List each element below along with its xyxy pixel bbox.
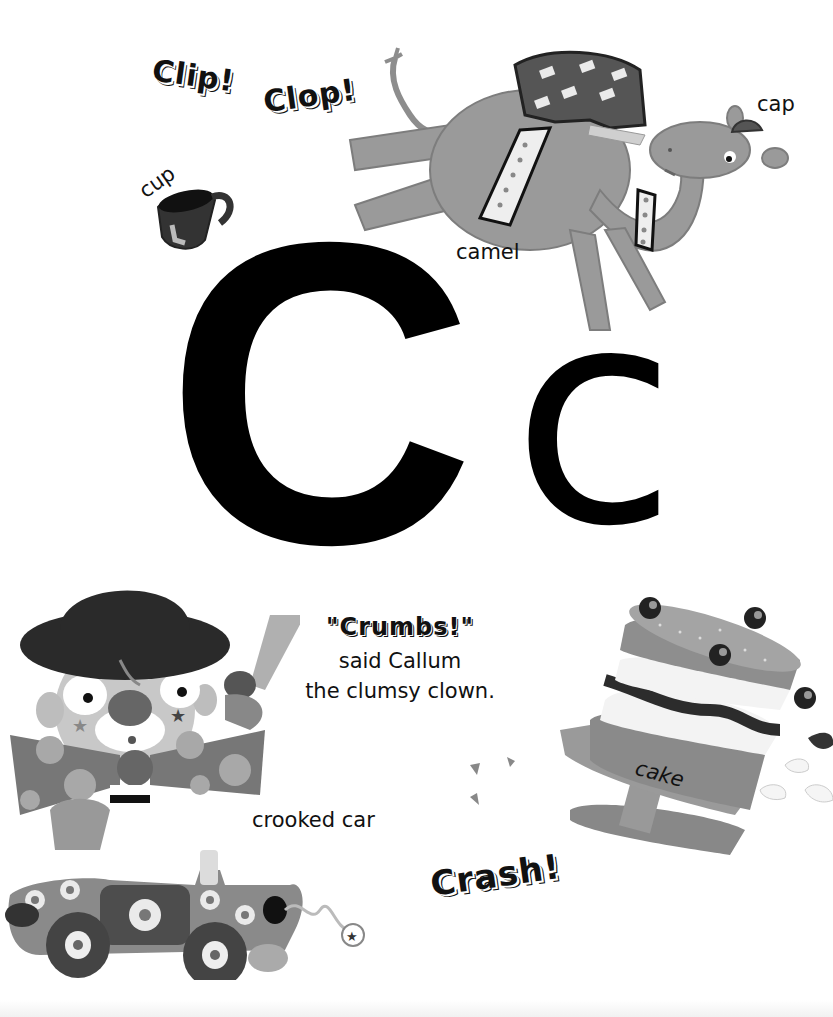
crumbs-decoration — [465, 755, 535, 825]
cap-label: cap — [757, 92, 795, 116]
caption-block: "Crumbs!" said Callum the clumsy clown. — [250, 612, 550, 706]
crumbs-quote: "Crumbs!" — [250, 612, 550, 642]
svg-text:★: ★ — [346, 929, 358, 944]
crooked-car-label: crooked car — [252, 808, 375, 832]
caption-line-2: the clumsy clown. — [250, 676, 550, 706]
uppercase-letter: C — [165, 178, 476, 608]
cake-illustration — [550, 580, 833, 870]
car-illustration: ★ — [0, 840, 380, 980]
crash-sound-effect: Crash! — [428, 846, 563, 904]
lowercase-letter: c — [512, 268, 677, 568]
page-bottom-edge — [0, 1000, 833, 1017]
svg-text:★: ★ — [170, 705, 186, 726]
caption-line-1: said Callum — [250, 646, 550, 676]
svg-text:★: ★ — [72, 715, 88, 736]
clip-sound-effect: Clip! — [150, 52, 237, 98]
